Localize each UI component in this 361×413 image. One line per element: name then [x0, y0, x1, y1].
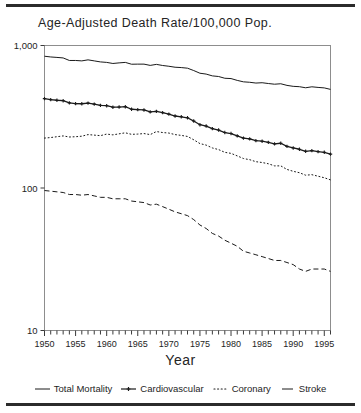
dotted-line-icon	[213, 384, 228, 394]
y-axis-tick-label: 1,000	[14, 40, 38, 51]
series-marker-plus	[217, 128, 220, 131]
series-line-total-mortality	[45, 56, 331, 89]
series-marker-plus	[267, 141, 270, 144]
legend-item-label: Cardiovascular	[140, 383, 203, 394]
y-axis-tick-label: 100	[22, 183, 38, 194]
series-marker-plus	[248, 137, 251, 140]
series-marker-plus	[254, 139, 257, 142]
series-marker-plus	[68, 101, 71, 104]
series-marker-plus	[86, 101, 89, 104]
death-rate-line-chart: 1,00010010195019551960196519701975198019…	[0, 0, 361, 380]
series-marker-plus	[43, 97, 46, 100]
series-line-stroke	[45, 191, 331, 272]
series-marker-plus	[74, 102, 77, 105]
series-marker-plus	[148, 110, 151, 113]
legend-item-label: Total Mortality	[54, 383, 113, 394]
page-rule-bottom	[6, 403, 355, 406]
legend-item-total-mortality[interactable]: Total Mortality	[35, 383, 113, 394]
x-axis-label: Year	[0, 352, 361, 368]
plus-marker-icon	[121, 384, 136, 394]
series-marker-plus	[329, 152, 332, 155]
series-marker-plus	[155, 110, 158, 113]
x-axis-tick-label: 1955	[66, 339, 86, 349]
series-marker-plus	[93, 102, 96, 105]
chart-legend: Total MortalityCardiovascularCoronaryStr…	[0, 383, 361, 394]
series-marker-plus	[111, 105, 114, 108]
solid-line-icon	[35, 384, 50, 394]
series-marker-plus	[142, 108, 145, 111]
series-marker-plus	[161, 111, 164, 114]
series-marker-plus	[229, 132, 232, 135]
series-marker-plus	[298, 148, 301, 151]
series-marker-plus	[49, 98, 52, 101]
series-marker-plus	[204, 124, 207, 127]
series-marker-plus	[291, 146, 294, 149]
x-axis-tick-label: 1990	[283, 339, 303, 349]
y-axis-tick-label: 10	[27, 325, 38, 336]
series-marker-plus	[273, 142, 276, 145]
x-axis-tick-label: 1970	[159, 339, 179, 349]
legend-item-stroke[interactable]: Stroke	[280, 383, 326, 394]
dashed-line-icon	[280, 384, 295, 394]
legend-item-label: Stroke	[299, 383, 326, 394]
series-marker-plus	[55, 99, 58, 102]
series-marker-plus	[304, 150, 307, 153]
series-marker-plus	[136, 108, 139, 111]
series-marker-plus	[180, 115, 183, 118]
x-axis-tick-label: 1950	[34, 339, 54, 349]
x-axis-tick-label: 1980	[221, 339, 241, 349]
x-axis-tick-label: 1995	[314, 339, 334, 349]
series-marker-plus	[316, 150, 319, 153]
x-axis-tick-label: 1965	[128, 339, 148, 349]
plot-frame	[45, 46, 331, 331]
x-axis-tick-label: 1960	[97, 339, 117, 349]
legend-item-label: Coronary	[232, 383, 271, 394]
series-marker-plus	[310, 149, 313, 152]
legend-item-coronary[interactable]: Coronary	[213, 383, 271, 394]
series-marker-plus	[242, 136, 245, 139]
series-marker-plus	[117, 105, 120, 108]
series-marker-plus	[124, 105, 127, 108]
chart-plot-area: 1,00010010195019551960196519701975198019…	[0, 0, 361, 380]
series-marker-plus	[167, 112, 170, 115]
series-marker-plus	[105, 104, 108, 107]
x-axis-tick-label: 1975	[190, 339, 210, 349]
series-marker-plus	[260, 140, 263, 143]
series-marker-plus	[61, 99, 64, 102]
x-axis-tick-label: 1985	[252, 339, 272, 349]
series-marker-plus	[80, 102, 83, 105]
series-marker-plus	[99, 104, 102, 107]
series-marker-plus	[236, 134, 239, 137]
series-line-coronary	[45, 132, 331, 180]
series-line-cardiovascular	[45, 99, 331, 154]
series-marker-plus	[323, 151, 326, 154]
legend-item-cardiovascular[interactable]: Cardiovascular	[121, 383, 203, 394]
series-marker-plus	[173, 114, 176, 117]
series-marker-plus	[223, 131, 226, 134]
